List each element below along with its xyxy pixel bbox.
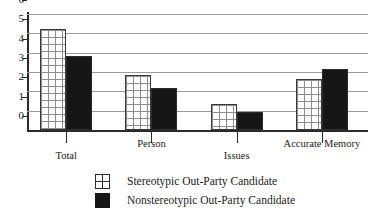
- legend-item-nonstereotypic: Nonstereotypic Out-Party Candidate: [95, 191, 325, 210]
- y-tick-mark: [22, 0, 27, 1]
- x-tick-mark: [237, 132, 238, 143]
- y-tick-label: 6: [4, 0, 24, 5]
- gridline: [27, 14, 368, 15]
- y-tick-label: 0: [4, 110, 24, 121]
- light-crosshatch-swatch: [95, 174, 110, 189]
- plot-area: [27, 14, 368, 130]
- legend-label: Nonstereotypic Out-Party Candidate: [127, 194, 295, 207]
- x-axis-label: Issues: [224, 150, 250, 162]
- bar: [296, 79, 322, 130]
- bar: [237, 112, 263, 130]
- bar: [151, 88, 177, 130]
- dark-solid-swatch: [95, 193, 110, 208]
- y-tick-label: 5: [4, 13, 24, 24]
- legend-label: Stereotypic Out-Party Candidate: [127, 175, 277, 188]
- chart-legend: Stereotypic Out-Party Candidate Nonstere…: [95, 172, 325, 210]
- y-tick-label: 1: [4, 91, 24, 102]
- gridline: [27, 53, 368, 54]
- grouped-bar-chart: 0123456 TotalPersonIssuesAccurate Memory…: [0, 0, 384, 223]
- y-tick-label: 3: [4, 52, 24, 63]
- y-tick-label: 2: [4, 71, 24, 82]
- bar: [66, 56, 92, 130]
- y-axis: 0123456: [0, 0, 24, 116]
- y-tick-label: 4: [4, 33, 24, 44]
- x-axis-label: Person: [137, 138, 166, 150]
- gridline: [27, 33, 368, 34]
- bar: [211, 104, 237, 130]
- x-tick-mark: [66, 132, 67, 143]
- x-axis-label: Total: [55, 150, 76, 162]
- bar: [125, 75, 151, 130]
- x-axis-label: Accurate Memory: [284, 138, 361, 150]
- bar: [40, 29, 66, 130]
- x-axis-line: [27, 130, 368, 132]
- legend-item-stereotypic: Stereotypic Out-Party Candidate: [95, 172, 325, 191]
- bar: [322, 69, 348, 130]
